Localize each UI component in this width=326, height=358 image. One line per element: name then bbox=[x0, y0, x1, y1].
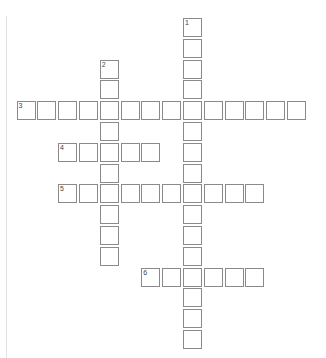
crossword-cell[interactable] bbox=[183, 205, 202, 224]
crossword-cell[interactable]: 5 bbox=[58, 184, 77, 203]
crossword-cell[interactable] bbox=[183, 80, 202, 99]
crossword-cell[interactable] bbox=[287, 101, 306, 120]
crossword-cell[interactable] bbox=[79, 184, 98, 203]
crossword-grid: 123456 bbox=[0, 0, 326, 358]
crossword-cell[interactable] bbox=[141, 101, 160, 120]
crossword-cell[interactable] bbox=[162, 268, 181, 287]
crossword-cell[interactable] bbox=[183, 268, 202, 287]
crossword-cell[interactable]: 1 bbox=[183, 18, 202, 37]
crossword-cell[interactable] bbox=[100, 164, 119, 183]
crossword-cell[interactable] bbox=[141, 184, 160, 203]
crossword-cell[interactable] bbox=[245, 101, 264, 120]
crossword-cell[interactable]: 6 bbox=[141, 268, 160, 287]
crossword-cell[interactable] bbox=[79, 143, 98, 162]
clue-number: 3 bbox=[19, 102, 23, 110]
crossword-cell[interactable] bbox=[225, 101, 244, 120]
crossword-cell[interactable] bbox=[225, 268, 244, 287]
crossword-cell[interactable] bbox=[204, 184, 223, 203]
crossword-cell[interactable] bbox=[100, 205, 119, 224]
crossword-cell[interactable] bbox=[121, 184, 140, 203]
crossword-cell[interactable] bbox=[183, 247, 202, 266]
clue-number: 2 bbox=[102, 61, 106, 69]
crossword-cell[interactable]: 2 bbox=[100, 60, 119, 79]
crossword-cell[interactable] bbox=[79, 101, 98, 120]
crossword-cell[interactable] bbox=[100, 80, 119, 99]
crossword-cell[interactable] bbox=[141, 143, 160, 162]
crossword-cell[interactable] bbox=[183, 226, 202, 245]
crossword-cell[interactable] bbox=[183, 164, 202, 183]
crossword-cell[interactable] bbox=[58, 101, 77, 120]
crossword-cell[interactable] bbox=[183, 39, 202, 58]
crossword-cell[interactable] bbox=[100, 101, 119, 120]
crossword-cell[interactable] bbox=[121, 143, 140, 162]
crossword-cell[interactable] bbox=[100, 122, 119, 141]
crossword-cell[interactable] bbox=[162, 101, 181, 120]
crossword-cell[interactable] bbox=[183, 122, 202, 141]
clue-number: 1 bbox=[185, 19, 189, 27]
crossword-cell[interactable] bbox=[100, 143, 119, 162]
crossword-cell[interactable] bbox=[183, 101, 202, 120]
crossword-cell[interactable] bbox=[100, 247, 119, 266]
clue-number: 5 bbox=[60, 185, 64, 193]
crossword-cell[interactable] bbox=[204, 268, 223, 287]
crossword-cell[interactable] bbox=[37, 101, 56, 120]
crossword-cell[interactable] bbox=[225, 184, 244, 203]
crossword-cell[interactable] bbox=[183, 143, 202, 162]
crossword-cell[interactable] bbox=[183, 60, 202, 79]
crossword-cell[interactable]: 3 bbox=[17, 101, 36, 120]
crossword-cell[interactable] bbox=[245, 184, 264, 203]
crossword-cell[interactable] bbox=[266, 101, 285, 120]
crossword-cell[interactable] bbox=[183, 309, 202, 328]
crossword-cell[interactable] bbox=[100, 184, 119, 203]
crossword-cell[interactable] bbox=[183, 288, 202, 307]
clue-number: 6 bbox=[143, 269, 147, 277]
clue-number: 4 bbox=[60, 144, 64, 152]
crossword-cell[interactable] bbox=[245, 268, 264, 287]
crossword-cell[interactable] bbox=[162, 184, 181, 203]
crossword-cell[interactable]: 4 bbox=[58, 143, 77, 162]
crossword-cell[interactable] bbox=[204, 101, 223, 120]
crossword-cell[interactable] bbox=[183, 184, 202, 203]
crossword-cell[interactable] bbox=[100, 226, 119, 245]
crossword-cell[interactable] bbox=[121, 101, 140, 120]
crossword-cell[interactable] bbox=[183, 330, 202, 349]
